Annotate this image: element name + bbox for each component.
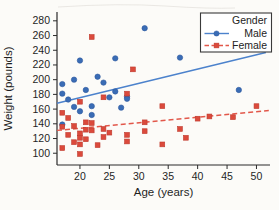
legend-title: Gender [232, 14, 268, 26]
x-tick-label: 40 [192, 170, 204, 182]
y-tick-label: 180 [32, 88, 50, 100]
y-tick-label: 260 [32, 29, 50, 41]
male-point [113, 56, 118, 61]
y-tick-label: 140 [32, 117, 50, 129]
female-point [101, 135, 106, 140]
female-point [89, 121, 94, 126]
legend: Gender Male Female [201, 13, 272, 52]
x-tick-label: 25 [104, 170, 116, 182]
male-point [71, 77, 76, 82]
female-marker-icon [214, 43, 219, 48]
x-tick-label: 35 [162, 170, 174, 182]
female-point [125, 91, 130, 96]
female-point [95, 143, 100, 148]
female-point [160, 142, 165, 147]
male-point [107, 95, 112, 100]
y-tick-label: 100 [32, 147, 50, 159]
x-axis-label: Age (years) [134, 186, 194, 198]
y-tick-label: 200 [32, 73, 50, 85]
male-point [177, 55, 182, 60]
x-tick-label: 45 [221, 170, 233, 182]
female-point [60, 124, 65, 129]
female-trend-line [57, 111, 269, 131]
male-point [124, 96, 129, 101]
female-point [160, 104, 165, 109]
female-point [72, 124, 77, 129]
female-point [78, 142, 83, 147]
male-marker-icon [214, 31, 219, 36]
x-tick-label: 30 [133, 170, 145, 182]
female-point [72, 140, 77, 145]
female-point [142, 120, 147, 125]
female-point [83, 120, 88, 125]
male-point [77, 58, 82, 63]
female-point [78, 135, 83, 140]
female-point [83, 127, 88, 132]
female-point [107, 130, 112, 135]
legend-label-male: Male [244, 27, 267, 39]
female-point [142, 129, 147, 134]
female-point [60, 146, 65, 151]
y-tick-label: 160 [32, 103, 50, 115]
x-tick-label: 20 [74, 170, 86, 182]
scatter-plot-figure: 2025303540455010012014016018020022024026… [0, 0, 279, 210]
scan-artifact [58, 5, 235, 9]
female-point [207, 114, 212, 119]
female-point [195, 116, 200, 121]
male-point [65, 97, 70, 102]
female-point [101, 95, 106, 100]
female-point [231, 115, 236, 120]
female-point [89, 35, 94, 40]
female-point [125, 132, 130, 137]
female-point [178, 127, 183, 132]
female-point [101, 127, 106, 132]
male-point [142, 25, 147, 30]
male-point [89, 103, 94, 108]
male-point [83, 87, 88, 92]
male-point [236, 87, 241, 92]
y-tick-label: 240 [32, 44, 50, 56]
female-point [60, 110, 65, 115]
female-point [66, 116, 71, 121]
chart-svg: 2025303540455010012014016018020022024026… [0, 0, 279, 210]
x-tick-label: 50 [251, 170, 263, 182]
male-point [101, 80, 106, 85]
female-point [78, 131, 83, 136]
male-trend-line [57, 52, 266, 103]
female-point [125, 139, 130, 144]
female-point [83, 137, 88, 142]
legend-label-female: Female [232, 39, 267, 51]
male-point [113, 89, 118, 94]
male-point [71, 104, 76, 109]
female-point [89, 128, 94, 133]
y-tick-label: 280 [32, 14, 50, 26]
female-point [254, 104, 259, 109]
male-point [118, 105, 123, 110]
y-axis-label: Weight (pounds) [2, 46, 14, 130]
y-tick-label: 220 [32, 58, 50, 70]
y-tick-label: 120 [32, 132, 50, 144]
female-point [78, 152, 83, 157]
male-point [60, 81, 65, 86]
female-point [131, 67, 136, 72]
male-point [89, 112, 94, 117]
male-point [95, 74, 100, 79]
female-point [183, 135, 188, 140]
male-point [60, 91, 65, 96]
female-point [78, 99, 83, 104]
female-point [66, 132, 71, 137]
male-point [77, 109, 82, 114]
